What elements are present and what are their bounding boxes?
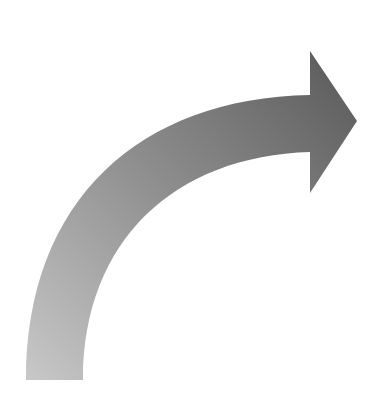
- curved-arrow-icon: [0, 0, 375, 403]
- arrow-shape: [26, 51, 357, 380]
